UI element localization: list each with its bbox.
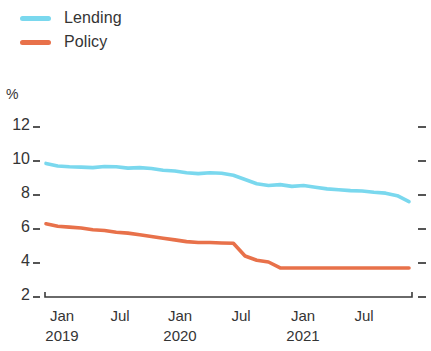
series-line-policy — [46, 224, 409, 268]
x-tick-year-4: 2021 — [283, 327, 323, 344]
x-tick-label-5: Jul — [344, 307, 384, 324]
x-tick-year-0: 2019 — [42, 327, 82, 344]
x-tick-label-2: Jan — [160, 307, 200, 324]
plot-area — [0, 0, 431, 351]
x-tick-label-3: Jul — [221, 307, 261, 324]
x-tick-label-1: Jul — [100, 307, 140, 324]
x-tick-year-2: 2020 — [160, 327, 200, 344]
series-line-lending — [46, 163, 409, 201]
line-chart: Lending Policy % 12 10 8 6 4 2 Jan 2019 … — [0, 0, 431, 351]
x-tick-label-4: Jan — [283, 307, 323, 324]
x-axis-line — [45, 292, 412, 297]
x-tick-label-0: Jan — [42, 307, 82, 324]
